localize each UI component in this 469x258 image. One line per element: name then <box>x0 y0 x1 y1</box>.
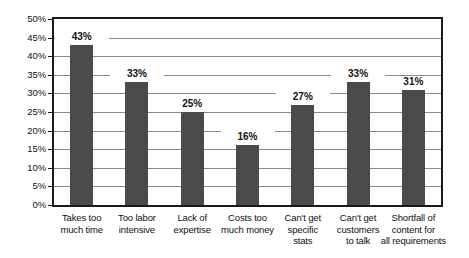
plot-frame: 43%33%25%16%27%33%31% <box>52 17 443 207</box>
gridline <box>54 38 441 39</box>
y-axis-tick <box>48 131 54 132</box>
bar <box>70 45 93 205</box>
x-axis-category-label-line: all requirements <box>376 235 450 247</box>
y-axis-tick <box>48 75 54 76</box>
bar <box>125 82 148 205</box>
bar-value-label: 27% <box>276 91 330 103</box>
y-axis-tick <box>48 19 54 20</box>
y-axis-tick-label: 0% <box>6 200 46 210</box>
bar <box>236 145 259 205</box>
y-axis-tick-label: 40% <box>6 51 46 61</box>
y-axis-tick-label: 35% <box>6 70 46 80</box>
y-axis-tick-label: 25% <box>6 107 46 117</box>
gridline <box>54 112 441 113</box>
x-axis-category-label-line: content for <box>376 224 450 236</box>
y-axis-tick <box>48 186 54 187</box>
gridline <box>54 56 441 57</box>
bar <box>181 112 204 205</box>
bar-value-label: 43% <box>55 31 109 43</box>
y-axis-tick <box>48 149 54 150</box>
y-axis-tick-label: 15% <box>6 144 46 154</box>
bar <box>291 105 314 205</box>
x-axis-category-label: Shortfall ofcontent forall requirements <box>376 212 450 247</box>
plot-area: 43%33%25%16%27%33%31% <box>54 19 441 205</box>
y-axis-tick-label: 50% <box>6 14 46 24</box>
y-axis-tick-label: 10% <box>6 163 46 173</box>
y-axis-tick-label: 20% <box>6 126 46 136</box>
y-axis-tick-label: 30% <box>6 88 46 98</box>
bar-chart-figure: 0%5%10%15%20%25%30%35%40%45%50% 43%33%25… <box>0 0 469 258</box>
y-axis-tick <box>48 38 54 39</box>
y-axis-tick-label: 45% <box>6 33 46 43</box>
bar-value-label: 25% <box>165 98 219 110</box>
y-axis-tick-label: 5% <box>6 181 46 191</box>
bar-value-label: 31% <box>386 76 440 88</box>
y-axis-tick <box>48 112 54 113</box>
bar <box>347 82 370 205</box>
bar-value-label: 33% <box>331 68 385 80</box>
bar-value-label: 16% <box>221 131 275 143</box>
y-axis-tick <box>48 205 54 206</box>
y-axis-tick <box>48 56 54 57</box>
y-axis-tick <box>48 93 54 94</box>
bar <box>402 90 425 205</box>
gridline <box>54 93 441 94</box>
y-axis-tick <box>48 168 54 169</box>
bar-value-label: 33% <box>110 68 164 80</box>
x-axis-category-label-line: Shortfall of <box>376 212 450 224</box>
